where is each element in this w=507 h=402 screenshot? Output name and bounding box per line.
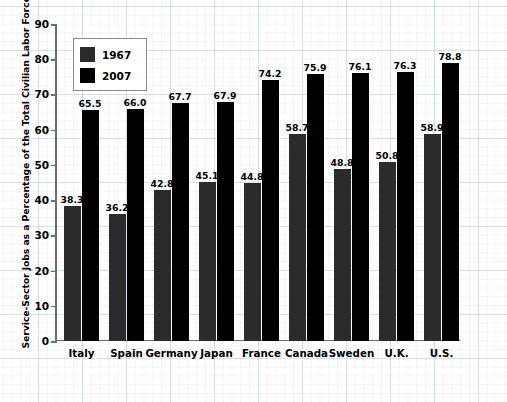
bar-spain-1967[interactable] bbox=[109, 214, 126, 342]
bar-us-2007[interactable] bbox=[442, 63, 459, 341]
bar-value-label: 67.7 bbox=[160, 91, 200, 102]
bar-italy-2007[interactable] bbox=[82, 110, 99, 341]
bar-france-1967[interactable] bbox=[244, 183, 261, 341]
bar-spain-2007[interactable] bbox=[127, 109, 144, 341]
y-tick-label: 50 bbox=[11, 159, 49, 171]
y-tick bbox=[51, 341, 57, 343]
legend-label-2007: 2007 bbox=[102, 70, 131, 82]
bar-france-2007[interactable] bbox=[262, 80, 279, 341]
bar-sweden-1967[interactable] bbox=[334, 169, 351, 341]
bar-group: 42.867.7Germany bbox=[154, 24, 189, 341]
legend-swatch-2007 bbox=[80, 68, 95, 83]
y-tick-label: 60 bbox=[11, 124, 49, 136]
bar-value-label: 66.0 bbox=[115, 97, 155, 108]
bar-group: 44.874.2France bbox=[244, 24, 279, 341]
bar-group: 58.978.8U.S. bbox=[424, 24, 459, 341]
y-tick-label: 0 bbox=[11, 335, 49, 347]
legend-label-1967: 1967 bbox=[102, 49, 131, 61]
bar-value-label: 76.3 bbox=[385, 60, 425, 71]
bar-canada-2007[interactable] bbox=[307, 74, 324, 341]
bar-group: 45.167.9Japan bbox=[199, 24, 234, 341]
legend-swatch-1967 bbox=[80, 47, 95, 62]
bar-uk-2007[interactable] bbox=[397, 72, 414, 341]
bar-chart: Service-Sector Jobs as a Percentage of t… bbox=[0, 0, 507, 402]
y-tick-label: 80 bbox=[11, 53, 49, 65]
bar-group: 58.775.9Canada bbox=[289, 24, 324, 341]
y-tick-label: 30 bbox=[11, 229, 49, 241]
bar-value-label: 75.9 bbox=[295, 62, 335, 73]
bar-germany-2007[interactable] bbox=[172, 103, 189, 341]
bar-japan-2007[interactable] bbox=[217, 102, 234, 341]
y-tick-label: 20 bbox=[11, 265, 49, 277]
bar-japan-1967[interactable] bbox=[199, 182, 216, 341]
legend-item-1967: 1967 bbox=[80, 44, 146, 65]
y-tick-label: 10 bbox=[11, 300, 49, 312]
bar-italy-1967[interactable] bbox=[64, 206, 81, 341]
bar-us-1967[interactable] bbox=[424, 134, 441, 341]
y-tick-label: 40 bbox=[11, 194, 49, 206]
bar-canada-1967[interactable] bbox=[289, 134, 306, 341]
y-tick-label: 70 bbox=[11, 88, 49, 100]
bar-germany-1967[interactable] bbox=[154, 190, 171, 341]
bar-value-label: 76.1 bbox=[340, 61, 380, 72]
bar-sweden-2007[interactable] bbox=[352, 73, 369, 341]
legend-item-2007: 2007 bbox=[80, 65, 146, 86]
bar-value-label: 78.8 bbox=[430, 51, 470, 62]
bar-uk-1967[interactable] bbox=[379, 162, 396, 341]
y-tick-label: 90 bbox=[11, 18, 49, 30]
bar-value-label: 67.9 bbox=[205, 90, 245, 101]
bar-value-label: 74.2 bbox=[250, 68, 290, 79]
bar-group: 48.876.1Sweden bbox=[334, 24, 369, 341]
x-axis-label-us: U.S. bbox=[404, 347, 480, 359]
bar-group: 50.876.3U.K. bbox=[379, 24, 414, 341]
bar-value-label: 65.5 bbox=[70, 98, 110, 109]
chart-legend: 1967 2007 bbox=[73, 38, 147, 91]
